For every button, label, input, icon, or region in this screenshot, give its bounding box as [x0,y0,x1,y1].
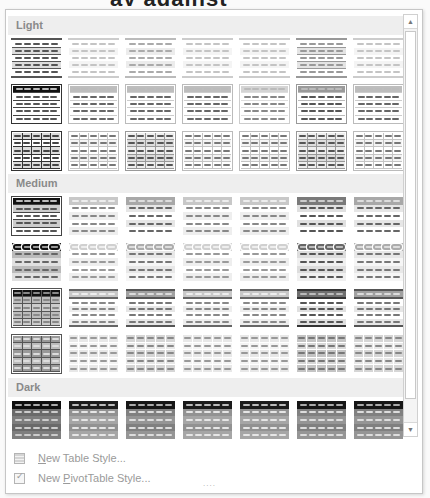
background-title-fragment: ay against [110,0,340,6]
table-style-dark-6[interactable] [296,400,347,440]
table-style-medium-16[interactable] [68,288,119,328]
table-style-light-18[interactable] [182,131,233,171]
table-style-light-14[interactable] [353,84,404,124]
table-style-medium-13[interactable] [296,242,347,282]
table-style-medium-15[interactable] [11,288,62,328]
table-style-medium-23[interactable] [68,334,119,374]
table-style-medium-24[interactable] [125,334,176,374]
table-style-medium-20[interactable] [296,288,347,328]
table-style-medium-14[interactable] [353,242,404,282]
table-style-light-12[interactable] [239,84,290,124]
table-style-medium-18[interactable] [182,288,233,328]
section-header-light: Light [8,16,404,35]
table-style-dark-7[interactable] [353,400,404,440]
pivottable-style-icon [14,473,25,484]
table-style-medium-10[interactable] [125,242,176,282]
table-style-dark-4[interactable] [182,400,233,440]
table-style-light-20[interactable] [296,131,347,171]
table-style-medium-6[interactable] [296,196,347,236]
table-style-medium-3[interactable] [125,196,176,236]
table-style-light-4[interactable] [182,38,233,78]
table-style-dark-3[interactable] [125,400,176,440]
table-style-medium-17[interactable] [125,288,176,328]
table-style-light-1[interactable] [11,38,62,78]
table-style-dark-1[interactable] [11,400,62,440]
table-style-gallery-panel: LightMediumDark ▲ ▼ New Table Style... N… [5,9,423,494]
table-style-light-11[interactable] [182,84,233,124]
table-style-light-3[interactable] [125,38,176,78]
style-gallery: LightMediumDark [6,14,406,446]
table-style-light-15[interactable] [11,131,62,171]
chevron-up-icon: ▲ [407,18,414,25]
table-style-light-8[interactable] [11,84,62,124]
chevron-down-icon: ▼ [407,426,414,433]
table-style-light-10[interactable] [125,84,176,124]
table-style-medium-11[interactable] [182,242,233,282]
table-style-medium-5[interactable] [239,196,290,236]
section-header-medium: Medium [8,174,404,193]
table-style-medium-22[interactable] [11,334,62,374]
new-pivottable-style-label: New PivotTable Style... [38,472,151,484]
table-style-medium-27[interactable] [296,334,347,374]
new-table-style-label: New Table Style... [38,452,126,464]
table-style-light-19[interactable] [239,131,290,171]
scroll-thumb[interactable] [405,31,416,399]
table-style-medium-21[interactable] [353,288,404,328]
table-style-medium-28[interactable] [353,334,404,374]
table-style-medium-12[interactable] [239,242,290,282]
table-style-light-2[interactable] [68,38,119,78]
scroll-down-button[interactable]: ▼ [404,422,417,436]
table-style-dark-2[interactable] [68,400,119,440]
table-style-light-16[interactable] [68,131,119,171]
table-style-medium-2[interactable] [68,196,119,236]
table-style-light-17[interactable] [125,131,176,171]
table-style-medium-26[interactable] [239,334,290,374]
resize-grip[interactable]: .... [203,481,216,487]
table-style-medium-9[interactable] [68,242,119,282]
table-style-dark-5[interactable] [239,400,290,440]
table-style-light-13[interactable] [296,84,347,124]
table-style-icon [14,453,25,464]
new-table-style-menu-item[interactable]: New Table Style... [6,448,422,468]
gallery-scrollbar[interactable]: ▲ ▼ [403,14,418,437]
table-style-medium-4[interactable] [182,196,233,236]
table-style-light-9[interactable] [68,84,119,124]
table-style-medium-19[interactable] [239,288,290,328]
section-header-dark: Dark [8,378,404,397]
table-style-light-21[interactable] [353,131,404,171]
table-style-light-5[interactable] [239,38,290,78]
table-style-light-7[interactable] [353,38,404,78]
table-style-medium-25[interactable] [182,334,233,374]
table-style-medium-8[interactable] [11,242,62,282]
table-style-light-6[interactable] [296,38,347,78]
table-style-medium-7[interactable] [353,196,404,236]
table-style-medium-1[interactable] [11,196,62,236]
scroll-up-button[interactable]: ▲ [404,15,417,29]
